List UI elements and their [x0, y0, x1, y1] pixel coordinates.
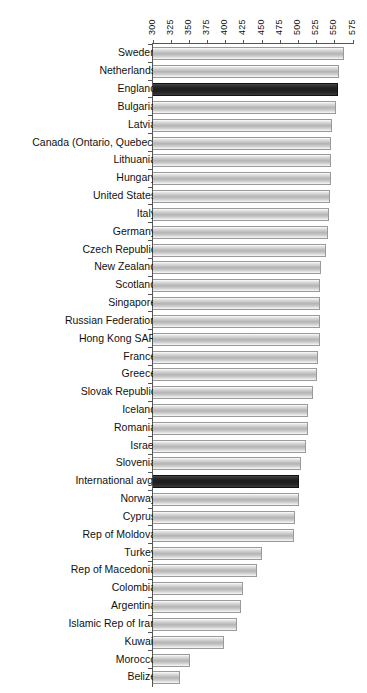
y-axis-category-label: United States — [93, 189, 156, 202]
bar-row: International avg. — [0, 472, 367, 490]
y-axis-category-label: Slovenia — [116, 456, 156, 469]
y-axis-tick-mark — [148, 44, 152, 45]
bar — [153, 422, 308, 435]
bar-row: Iceland — [0, 401, 367, 419]
bar — [153, 654, 190, 667]
bar — [153, 226, 328, 239]
bar-row: Latvia — [0, 115, 367, 133]
bar — [153, 493, 299, 506]
y-axis-category-label: Iceland — [122, 403, 156, 416]
y-axis-tick-mark — [148, 597, 152, 598]
y-axis-tick-mark — [148, 258, 152, 259]
bar — [153, 529, 294, 542]
y-axis-category-label: Czech Republic — [82, 243, 156, 256]
y-axis-category-label: Sweden — [118, 46, 156, 59]
bar — [153, 511, 295, 524]
x-axis: 300325350375400425450475500525550575 — [0, 0, 367, 44]
y-axis-tick-mark — [148, 329, 152, 330]
x-axis-tick-label: 350 — [184, 19, 193, 35]
bar-row: Czech Republic — [0, 240, 367, 258]
y-axis-tick-mark — [148, 97, 152, 98]
bar — [153, 636, 224, 649]
y-axis-category-label: Netherlands — [99, 64, 156, 77]
y-axis-tick-mark — [148, 311, 152, 312]
bar — [153, 315, 320, 328]
y-axis-tick-mark — [148, 240, 152, 241]
x-axis-tick-label: 575 — [348, 19, 357, 35]
y-axis-category-label: Belize — [127, 670, 156, 683]
y-axis-category-label: France — [123, 350, 156, 363]
bar-row: Hong Kong SAR — [0, 329, 367, 347]
y-axis-tick-mark — [148, 204, 152, 205]
y-axis-tick-mark — [148, 472, 152, 473]
y-axis-tick-mark — [148, 436, 152, 437]
bar-chart: 300325350375400425450475500525550575 Swe… — [0, 0, 367, 693]
y-axis-tick-mark — [148, 365, 152, 366]
bar-row: Hungary — [0, 169, 367, 187]
bar-row: Morocco — [0, 650, 367, 668]
y-axis-category-label: New Zealand — [94, 260, 156, 273]
bar — [153, 618, 237, 631]
bar-row: Scotland — [0, 276, 367, 294]
bar-row: England — [0, 80, 367, 98]
bar — [153, 208, 329, 221]
y-axis-category-label: International avg. — [75, 474, 156, 487]
bar-row: Singapore — [0, 294, 367, 312]
y-axis-category-label: Latvia — [128, 118, 156, 131]
bar-row: Norway — [0, 490, 367, 508]
bar — [153, 547, 262, 560]
bar — [153, 368, 317, 381]
y-axis-category-label: Germany — [113, 225, 156, 238]
bar — [153, 119, 332, 132]
bar-row: Canada (Ontario, Quebec) — [0, 133, 367, 151]
bar-row: Turkey — [0, 543, 367, 561]
y-axis-tick-mark — [148, 508, 152, 509]
y-axis-tick-mark — [148, 133, 152, 134]
y-axis-category-label: Bulgaria — [117, 100, 156, 113]
y-axis-tick-mark — [148, 187, 152, 188]
bar-highlighted — [153, 83, 338, 96]
bar — [153, 137, 331, 150]
y-axis-category-label: Hungary — [116, 171, 156, 184]
bar — [153, 671, 180, 684]
bar-row: Cyprus — [0, 508, 367, 526]
bar — [153, 101, 336, 114]
y-axis-category-label: Slovak Republic — [81, 385, 156, 398]
y-axis-category-label: Kuwait — [124, 635, 156, 648]
bar — [153, 47, 344, 60]
x-axis-tick-label: 475 — [275, 19, 284, 35]
bar-row: Romania — [0, 418, 367, 436]
y-axis-category-label: Norway — [120, 492, 156, 505]
y-axis-category-label: Cyprus — [123, 510, 156, 523]
bar — [153, 351, 318, 364]
x-axis-tick-label: 550 — [329, 19, 338, 35]
bar — [153, 440, 306, 453]
y-axis-tick-mark — [148, 543, 152, 544]
y-axis-category-label: Hong Kong SAR — [79, 332, 156, 345]
y-axis-tick-mark — [148, 632, 152, 633]
bar-row: Italy — [0, 204, 367, 222]
y-axis-tick-mark — [148, 615, 152, 616]
bar — [153, 190, 330, 203]
bar-row: Israel — [0, 436, 367, 454]
y-axis-category-label: Colombia — [112, 581, 156, 594]
x-axis-tick-label: 425 — [238, 19, 247, 35]
y-axis-category-label: Islamic Rep of Iran — [68, 617, 156, 630]
x-axis-tick-label: 500 — [293, 19, 302, 35]
y-axis-tick-mark — [148, 294, 152, 295]
plot-area: SwedenNetherlandsEnglandBulgariaLatviaCa… — [0, 44, 367, 693]
bar-row: Bulgaria — [0, 97, 367, 115]
y-axis-tick-mark — [148, 401, 152, 402]
bar — [153, 261, 321, 274]
bar — [153, 404, 308, 417]
y-axis-tick-mark — [148, 490, 152, 491]
y-axis-tick-mark — [148, 418, 152, 419]
bar — [153, 582, 243, 595]
y-axis-tick-mark — [148, 276, 152, 277]
y-axis-category-label: Scotland — [115, 278, 156, 291]
x-axis-tick-label: 400 — [220, 19, 229, 35]
y-axis-tick-mark — [148, 151, 152, 152]
x-axis-tick-label: 525 — [311, 19, 320, 35]
bar-row: Netherlands — [0, 62, 367, 80]
x-axis-tick-label: 325 — [166, 19, 175, 35]
